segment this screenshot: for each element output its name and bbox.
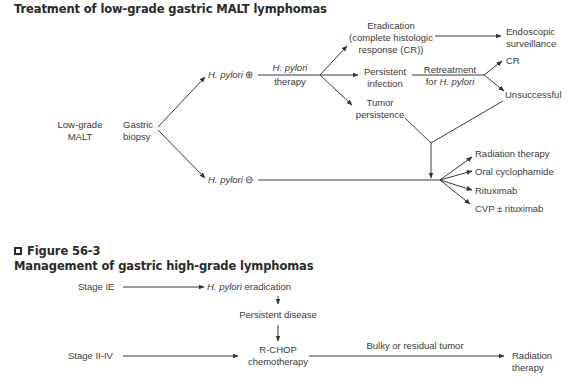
node-endoscopic-surveillance: Endoscopic surveillance [506, 26, 556, 50]
figure2-label: Figure 56-3 [14, 244, 100, 258]
arrow-biopsy-to-hp-neg [158, 130, 205, 178]
node-text: persistence [352, 109, 408, 121]
node-text: R-CHOP [240, 344, 316, 356]
label-bulky-residual: Bulky or residual tumor [355, 340, 475, 352]
label-hp-therapy: H. pylori therapy [262, 62, 318, 88]
node-eradication: Eradication (complete histologic respons… [346, 20, 436, 56]
figure-label-text: Figure 56-3 [27, 244, 100, 258]
figure2-title: Management of gastric high-grade lymphom… [14, 259, 313, 273]
node-hp-eradication: H. pylori eradication [207, 281, 291, 293]
node-text: surveillance [506, 38, 556, 50]
option-radiation-therapy: Radiation therapy [475, 148, 549, 160]
figure1-title: Treatment of low-grade gastric MALT lymp… [14, 2, 327, 16]
node-persistent-disease: Persistent disease [228, 309, 328, 321]
positive-sign-icon: ⊕ [243, 69, 254, 80]
node-text: biopsy [123, 131, 153, 143]
node-persistent-infection: Persistent infection [360, 66, 410, 90]
arrow-to-radiation [440, 157, 472, 180]
node-text: Low-grade [55, 119, 105, 131]
arrow-to-cvp [440, 180, 470, 204]
arrow-therapy-to-eradication [320, 46, 347, 75]
node-text: H. pylori [208, 174, 243, 185]
node-text: H. pylori [262, 62, 318, 74]
node-gastric-biopsy: Gastric biopsy [123, 119, 153, 143]
node-text: chemotherapy [240, 356, 316, 368]
node-low-grade-malt: Low-grade MALT [55, 119, 105, 143]
node-text: eradication [242, 281, 291, 292]
node-radiation-therapy: Radiation therapy [512, 350, 552, 374]
node-text: (complete histologic [346, 32, 436, 44]
node-tumor-persistence: Tumor persistence [352, 97, 408, 121]
option-rituximab: Rituximab [475, 185, 517, 197]
node-text: MALT [55, 131, 105, 143]
node-hp-positive: H. pylori ⊕ [208, 69, 253, 81]
arrow-to-rituximab [440, 180, 472, 190]
arrow-retreatment-to-unsuccessful [484, 75, 504, 91]
node-text: for [426, 76, 440, 87]
node-text: H. pylori [439, 76, 474, 87]
node-text: Retreatment [420, 64, 480, 76]
arrow-biopsy-to-hp-pos [158, 77, 205, 127]
node-text: Persistent [360, 66, 410, 78]
node-rchop-chemotherapy: R-CHOP chemotherapy [240, 344, 316, 368]
node-text: Endoscopic [506, 26, 556, 38]
node-text: Gastric [123, 119, 153, 131]
line-unsuccessful-to-junction [431, 101, 503, 143]
node-text: infection [360, 78, 410, 90]
label-retreatment: Retreatment for H. pylori [420, 64, 480, 88]
arrow-to-oral [440, 171, 472, 180]
node-text: therapy [512, 362, 552, 374]
line-tumor-to-junction [405, 118, 431, 143]
node-text: H. pylori [208, 69, 243, 80]
node-unsuccessful: Unsuccessful [505, 89, 562, 101]
node-cr: CR [506, 55, 520, 67]
node-hp-negative: H. pylori ⊖ [208, 174, 253, 186]
negative-sign-icon: ⊖ [243, 174, 254, 185]
node-text: Radiation [512, 350, 552, 362]
node-text: H. pylori [207, 281, 242, 292]
node-stage-ii-iv: Stage II-IV [68, 350, 113, 362]
arrow-retreatment-to-cr [484, 61, 502, 75]
node-stage-ie: Stage IE [78, 281, 114, 293]
node-text: Tumor [352, 97, 408, 109]
node-text: therapy [262, 76, 318, 88]
arrow-therapy-to-tumor [320, 75, 352, 105]
option-cvp-rituximab: CVP ± rituximab [475, 203, 543, 215]
option-oral-cyclophamide: Oral cyclophamide [475, 166, 554, 178]
figure-square-icon [14, 247, 22, 255]
node-text: response (CR)) [346, 44, 436, 56]
node-text: Eradication [346, 20, 436, 32]
